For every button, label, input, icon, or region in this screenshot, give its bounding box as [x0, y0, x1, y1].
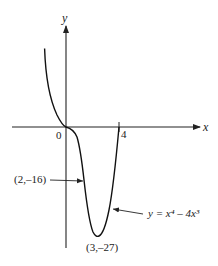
inflection-point-arrow: [50, 180, 83, 181]
minimum-point-label: (3,–27): [86, 242, 118, 253]
y-axis-label: y: [62, 12, 67, 24]
tick-4-label: 4: [121, 129, 127, 140]
origin-label: 0: [56, 130, 62, 141]
graph-canvas: [0, 0, 218, 266]
inflection-point-label: (2,–16): [14, 174, 46, 185]
function-curve: [45, 49, 119, 237]
equation-label: y = x⁴ – 4x³: [148, 208, 199, 219]
x-axis-label: x: [203, 121, 208, 133]
equation-arrow: [113, 209, 143, 214]
